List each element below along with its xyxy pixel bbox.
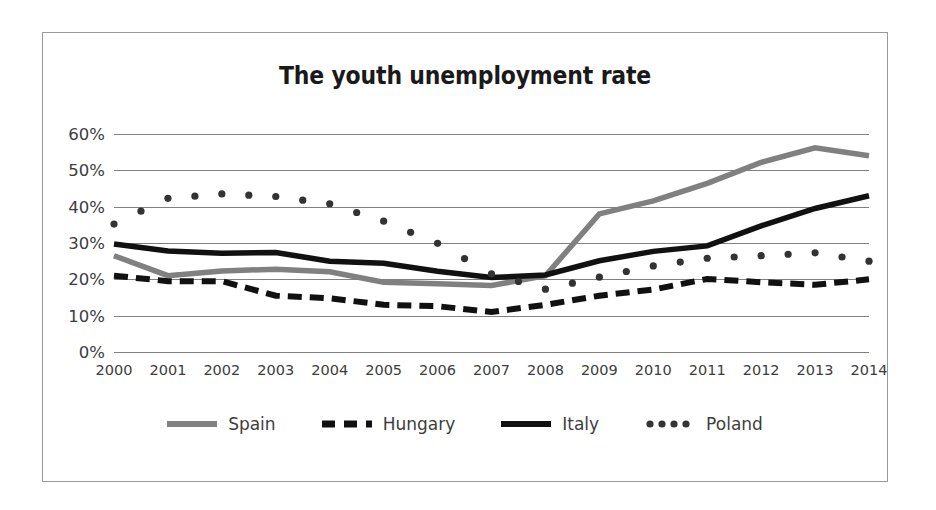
legend-item-italy[interactable]: Italy (501, 414, 599, 434)
series-poland (110, 190, 872, 292)
chart-legend: SpainHungaryItalyPoland (43, 414, 887, 434)
y-axis-tick-label: 0% (79, 343, 105, 362)
x-axis-tick-label: 2010 (635, 362, 672, 378)
series-hungary (114, 276, 869, 312)
x-axis-tick-label: 2007 (473, 362, 510, 378)
legend-item-poland[interactable]: Poland (645, 414, 763, 434)
x-axis-tick-label: 2009 (581, 362, 618, 378)
chart-frame: The youth unemployment rate 0%10%20%30%4… (42, 32, 888, 482)
x-axis-tick-label: 2002 (203, 362, 240, 378)
gridline (114, 352, 869, 353)
y-axis-tick-label: 60% (68, 125, 105, 144)
legend-label: Poland (706, 414, 763, 434)
legend-swatch-poland-icon (645, 417, 697, 431)
plot-area: 0%10%20%30%40%50%60% 2000200120022003200… (114, 134, 869, 352)
legend-swatch-spain-icon (167, 417, 219, 431)
legend-label: Spain (228, 414, 276, 434)
legend-item-hungary[interactable]: Hungary (322, 414, 456, 434)
x-axis-tick-label: 2008 (527, 362, 564, 378)
x-axis-tick-label: 2004 (311, 362, 348, 378)
y-axis-tick-label: 30% (68, 234, 105, 253)
series-lines (114, 134, 869, 352)
x-axis-tick-label: 2000 (96, 362, 133, 378)
x-axis-tick-label: 2013 (797, 362, 834, 378)
series-italy (114, 196, 869, 278)
y-axis-tick-label: 10% (68, 306, 105, 325)
x-axis-tick-label: 2011 (689, 362, 726, 378)
chart-title: The youth unemployment rate (94, 61, 837, 90)
series-spain (114, 148, 869, 286)
x-axis-tick-label: 2003 (257, 362, 294, 378)
y-axis-tick-label: 20% (68, 270, 105, 289)
legend-label: Italy (562, 414, 599, 434)
y-axis-tick-label: 50% (68, 161, 105, 180)
x-axis-tick-label: 2012 (743, 362, 780, 378)
x-axis-tick-label: 2001 (149, 362, 186, 378)
legend-swatch-italy-icon (501, 417, 553, 431)
y-axis-tick-label: 40% (68, 197, 105, 216)
legend-item-spain[interactable]: Spain (167, 414, 276, 434)
legend-swatch-hungary-icon (322, 417, 374, 431)
x-axis-tick-label: 2006 (419, 362, 456, 378)
x-axis-tick-label: 2014 (851, 362, 888, 378)
legend-label: Hungary (383, 414, 456, 434)
x-axis-tick-label: 2005 (365, 362, 402, 378)
